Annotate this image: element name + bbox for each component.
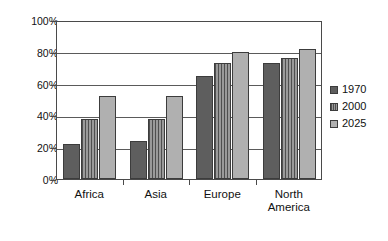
- x-axis-category-label: Asia: [123, 188, 190, 201]
- bar-1970-north-america: [263, 63, 280, 179]
- legend-swatch-icon: [330, 103, 338, 111]
- legend-item-2025[interactable]: 2025: [330, 116, 388, 131]
- bar-group: [263, 22, 317, 179]
- bar-2000-europe: [214, 63, 231, 179]
- bar-1970-europe: [196, 76, 213, 179]
- legend-item-label: 1970: [342, 84, 366, 95]
- x-axis-category-label: Africa: [56, 188, 123, 201]
- x-axis-tick-mark: [256, 180, 257, 185]
- bar-2000-africa: [81, 119, 98, 179]
- legend-item-label: 2000: [342, 101, 366, 112]
- bar-2025-africa: [99, 96, 116, 179]
- legend-swatch-icon: [330, 120, 338, 128]
- x-axis-category-label: Europe: [189, 188, 256, 201]
- legend-item-label: 2025: [342, 118, 366, 129]
- bar-group: [130, 22, 184, 179]
- bar-2025-asia: [166, 96, 183, 179]
- x-axis-category-label: North America: [256, 188, 323, 214]
- legend-item-2000[interactable]: 2000: [330, 99, 388, 114]
- bar-2025-europe: [232, 52, 249, 179]
- chart-legend: 197020002025: [330, 82, 388, 133]
- bar-chart: 0%20%40%60%80%100% AfricaAsiaEuropeNorth…: [0, 0, 388, 241]
- legend-swatch-icon: [330, 86, 338, 94]
- bar-2025-north-america: [299, 49, 316, 179]
- bar-group: [196, 22, 250, 179]
- bar-1970-africa: [63, 144, 80, 179]
- x-axis-tick-mark: [189, 180, 190, 185]
- bar-group: [63, 22, 117, 179]
- bar-2000-asia: [148, 119, 165, 179]
- plot-area: [56, 21, 322, 180]
- y-axis-tick-mark: [51, 180, 56, 181]
- bar-2000-north-america: [281, 58, 298, 179]
- legend-item-1970[interactable]: 1970: [330, 82, 388, 97]
- x-axis-tick-mark: [123, 180, 124, 185]
- bar-1970-asia: [130, 141, 147, 179]
